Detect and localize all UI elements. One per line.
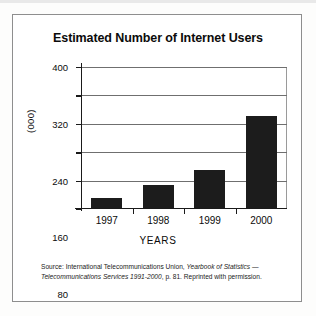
plot-frame-right-edge: [286, 67, 287, 209]
x-tick-mark: [133, 208, 134, 214]
x-tick-mark: [184, 208, 185, 214]
y-tick-label: 400: [52, 62, 68, 73]
bar-1997: [91, 198, 122, 208]
x-tick-label-1997: 1997: [96, 215, 118, 226]
y-tick-mark: 0: [76, 209, 82, 210]
source-note-italic-title: Yearbook of Statistics: [187, 263, 251, 270]
x-tick-label-1999: 1999: [199, 215, 221, 226]
source-note-italic-subtitle: Telecommunications Services 1991-2000: [41, 273, 162, 280]
bar-1999: [194, 170, 225, 208]
source-note: Source: International Telecommunications…: [41, 262, 285, 281]
x-tick-label-2000: 2000: [250, 215, 272, 226]
y-axis-title: (000): [25, 109, 36, 133]
y-tick-mark: 160: [76, 152, 82, 153]
x-tick-label-1998: 1998: [147, 215, 169, 226]
bar-2000: [246, 116, 277, 208]
plot-area: 0801602403204001997199819992000: [81, 67, 287, 209]
y-tick-label: 240: [52, 175, 68, 186]
scan-edge: [0, 0, 316, 3]
figure-border-box: Estimated Number of Internet Users (000)…: [12, 14, 302, 302]
source-note-middle: —: [250, 263, 258, 270]
y-tick-mark: 400: [76, 67, 82, 68]
y-tick-label: 80: [57, 289, 68, 300]
plot-wrapper: (000) 0801602403204001997199819992000 YE…: [13, 15, 303, 303]
gridline: [81, 95, 287, 96]
y-tick-label: 320: [52, 118, 68, 129]
figure-page: Estimated Number of Internet Users (000)…: [0, 0, 316, 316]
gridline: [81, 67, 287, 68]
y-tick-mark: 320: [76, 95, 82, 96]
source-note-prefix: Source: International Telecommunications…: [41, 263, 187, 270]
y-tick-mark: 240: [76, 124, 82, 125]
y-axis-line: [81, 63, 82, 211]
source-note-suffix: , p. 81. Reprinted with permission.: [162, 273, 262, 280]
bar-1998: [143, 185, 174, 208]
x-axis-title: YEARS: [13, 235, 303, 246]
x-tick-mark: [236, 208, 237, 214]
y-tick-mark: 80: [76, 181, 82, 182]
